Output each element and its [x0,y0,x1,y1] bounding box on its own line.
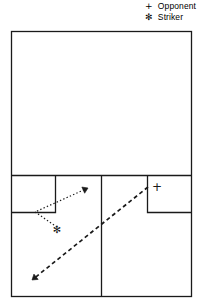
striker-movement-path [35,190,84,227]
court-diagram: +✻ [0,0,204,304]
plus-marker-icon: + [142,1,156,11]
legend-label-striker: Striker [156,12,183,22]
service-box-left [11,175,56,213]
legend-label-opponent: Opponent [156,1,196,11]
legend-item-striker: ✻ Striker [142,12,196,22]
court-lines [11,32,192,298]
legend: + Opponent ✻ Striker [142,1,196,22]
striker-marker: ✻ [53,224,61,235]
asterisk-marker-icon: ✻ [142,12,156,22]
opponent-marker: + [152,180,162,194]
figure-canvas: + Opponent ✻ Striker +✻ [0,0,204,304]
legend-item-opponent: + Opponent [142,1,196,11]
court-paths [32,187,148,280]
striker-movement-path-arrowhead [82,187,88,193]
